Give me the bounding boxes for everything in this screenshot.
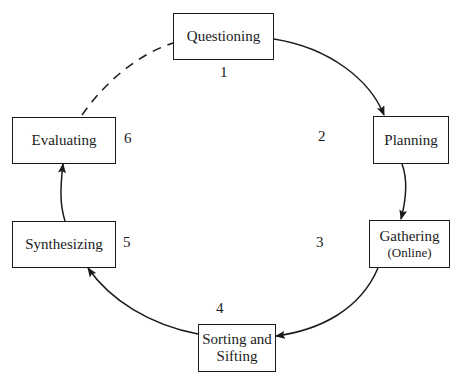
- node-evaluating: Evaluating: [12, 117, 116, 164]
- node-label: Evaluating: [32, 132, 97, 149]
- arrow-questioning-to-planning: [274, 39, 384, 115]
- step-number-5: 5: [123, 234, 131, 251]
- node-label: Sorting and: [202, 331, 272, 348]
- step-number-1: 1: [220, 64, 228, 81]
- step-number-6: 6: [124, 130, 132, 147]
- step-number-4: 4: [216, 300, 224, 317]
- node-sorting-sifting: Sorting and Sifting: [198, 324, 276, 372]
- node-label: Synthesizing: [25, 236, 103, 253]
- node-gathering: Gathering (Online): [369, 220, 450, 268]
- node-label: Questioning: [187, 28, 260, 45]
- node-planning: Planning: [373, 116, 449, 164]
- step-number-2: 2: [318, 128, 326, 145]
- node-questioning: Questioning: [173, 13, 274, 60]
- arrow-synthesizing-to-evaluating: [61, 164, 65, 221]
- node-synthesizing: Synthesizing: [12, 221, 116, 268]
- node-label-line2: Sifting: [217, 348, 258, 365]
- node-sublabel: (Online): [387, 245, 431, 260]
- arrow-planning-to-gathering: [401, 164, 406, 219]
- node-label: Gathering: [380, 228, 440, 245]
- node-label: Planning: [384, 132, 437, 149]
- arrow-gathering-to-sorting: [276, 268, 378, 336]
- step-number-3: 3: [316, 234, 324, 251]
- arrow-sorting-to-synthesizing: [88, 268, 198, 334]
